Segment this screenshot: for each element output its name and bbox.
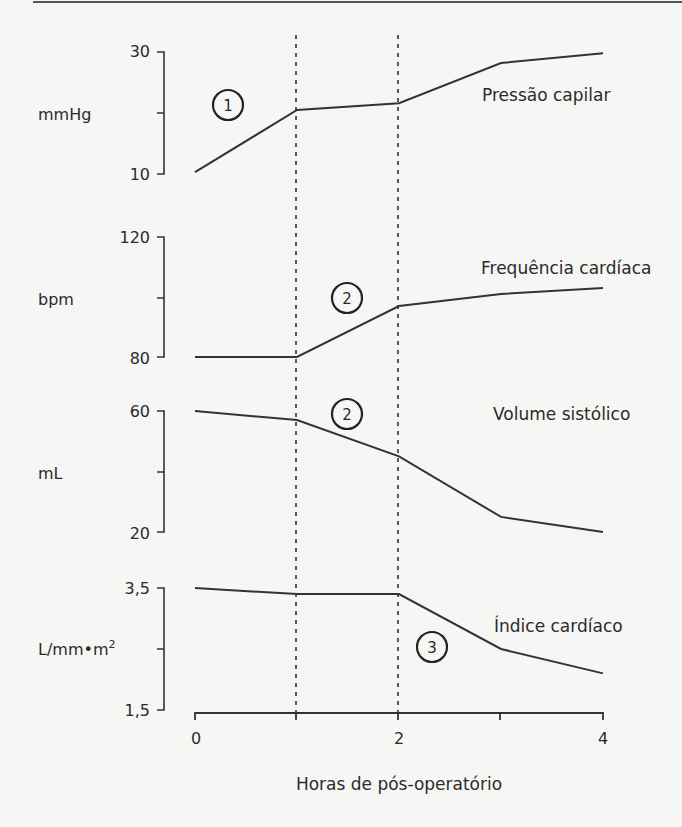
panel-volume-sistolico: 60 20 mL 2 Volume sistólico [38, 399, 630, 543]
y-axis [157, 411, 164, 532]
y-axis [157, 52, 164, 174]
y-min-label: 20 [130, 524, 150, 543]
x-tick-2: 2 [394, 729, 404, 748]
unit-label: mmHg [38, 105, 91, 124]
y-max-label: 60 [130, 402, 150, 421]
panel-indice-cardiaco: 3,5 1,5 L/mm•m2 3 Índice cardíaco [38, 579, 623, 720]
series-line [195, 411, 603, 532]
series-name: Pressão capilar [482, 85, 610, 105]
multi-panel-line-chart: 30 10 mmHg 1 Pressão capilar 120 80 bpm … [0, 0, 682, 827]
y-min-label: 10 [130, 165, 150, 184]
y-max-label: 120 [119, 228, 150, 247]
series-line [195, 53, 603, 172]
x-tick-4: 4 [598, 729, 608, 748]
panel-frequencia-cardiaca: 120 80 bpm 2 Frequência cardíaca [38, 228, 651, 368]
x-tick-0: 0 [191, 729, 201, 748]
series-line [195, 288, 603, 357]
panel-pressao-capilar: 30 10 mmHg 1 Pressão capilar [38, 42, 610, 184]
annotation-badge-label: 1 [223, 97, 233, 115]
unit-label: L/mm•m2 [38, 638, 116, 659]
y-max-label: 3,5 [125, 579, 150, 598]
unit-label: mL [38, 464, 63, 483]
x-axis: 0 2 4 Horas de pós-operatório [191, 713, 608, 794]
x-axis-label: Horas de pós-operatório [296, 774, 502, 794]
series-name: Volume sistólico [493, 404, 630, 424]
y-axis [157, 588, 164, 710]
y-max-label: 30 [130, 42, 150, 61]
series-name: Frequência cardíaca [481, 258, 651, 278]
annotation-badge-label: 2 [342, 406, 352, 424]
unit-label: bpm [38, 290, 74, 309]
y-min-label: 80 [130, 349, 150, 368]
y-min-label: 1,5 [125, 701, 150, 720]
y-axis [157, 237, 164, 357]
series-name: Índice cardíaco [494, 615, 623, 636]
annotation-badge-label: 2 [342, 290, 352, 308]
annotation-badge-label: 3 [427, 639, 437, 657]
book-page: 30 10 mmHg 1 Pressão capilar 120 80 bpm … [0, 0, 682, 827]
